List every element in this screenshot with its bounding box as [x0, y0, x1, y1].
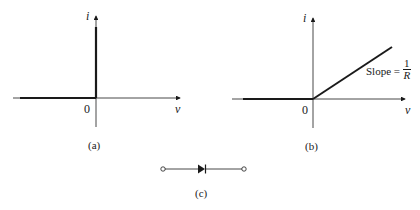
- panel-b-y-label: i: [303, 12, 306, 24]
- panel-b-x-label: v: [405, 104, 410, 116]
- panel-a-origin-label: 0: [84, 103, 90, 115]
- slope-fraction: 1 R: [403, 58, 411, 81]
- panel-a-caption: (a): [88, 140, 100, 151]
- panel-a-y-label: i: [86, 10, 89, 22]
- slope-denominator: R: [403, 70, 410, 81]
- diagram-canvas: [0, 0, 420, 210]
- panel-b-caption: (b): [305, 141, 318, 152]
- panel-a-curve: [20, 27, 96, 98]
- diode-symbol: [161, 165, 246, 174]
- panel-b-origin-label: 0: [302, 104, 308, 116]
- panel-c-caption: (c): [195, 188, 207, 199]
- panel-a-x-label: v: [175, 103, 180, 115]
- slope-label: Slope =: [366, 66, 400, 77]
